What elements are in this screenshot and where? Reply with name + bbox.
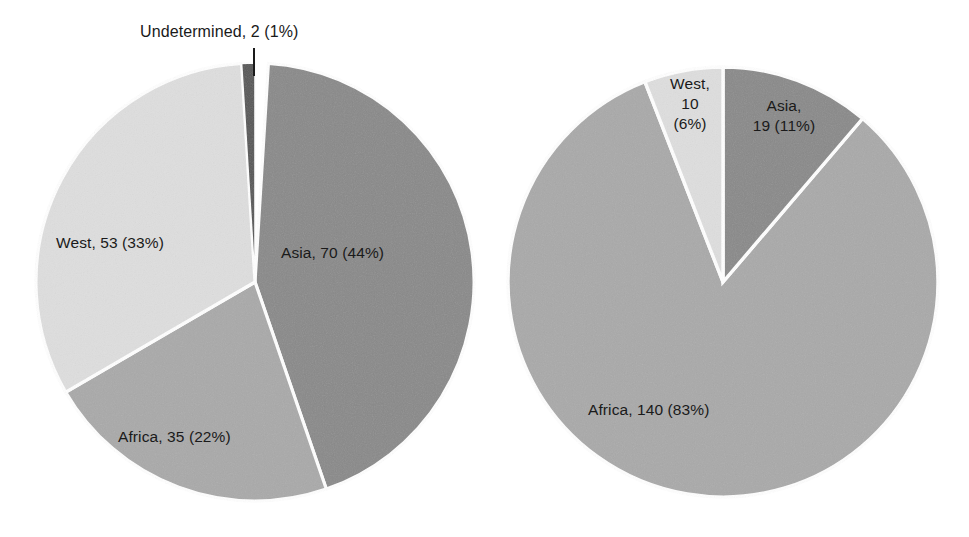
right-pie-chart bbox=[508, 67, 938, 497]
pie-label-asia-right-line2: 19 (11%) bbox=[738, 116, 830, 136]
pie-label-undetermined-left: Undetermined, 2 (1%) bbox=[140, 22, 299, 42]
pie-label-west-right-line3: (6%) bbox=[658, 114, 722, 134]
pie-label-africa-right: Africa, 140 (83%) bbox=[588, 400, 709, 420]
pie-label-west-left: West, 53 (33%) bbox=[56, 233, 164, 253]
pie-label-west-right-line1: West, bbox=[658, 74, 722, 94]
pie-chart-figure: Undetermined, 2 (1%) West, 53 (33%) Asia… bbox=[0, 0, 969, 537]
pie-charts-canvas bbox=[0, 0, 969, 537]
pie-label-west-right-line2: 10 bbox=[658, 94, 722, 114]
left-pie-chart bbox=[36, 63, 474, 501]
pie-label-africa-left: Africa, 35 (22%) bbox=[118, 427, 231, 447]
pie-label-asia-left: Asia, 70 (44%) bbox=[281, 243, 384, 263]
pie-label-asia-right-line1: Asia, bbox=[738, 96, 830, 116]
pie-label-asia-right: Asia, 19 (11%) bbox=[738, 96, 830, 136]
pie-label-west-right: West, 10 (6%) bbox=[658, 74, 722, 133]
